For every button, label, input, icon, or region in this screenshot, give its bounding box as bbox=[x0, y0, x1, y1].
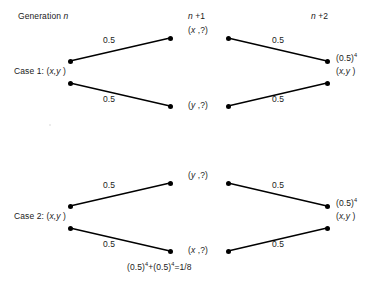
image-speck bbox=[49, 124, 51, 126]
case-2-mid-bottom-label: (x ,?) bbox=[188, 246, 208, 256]
diagram-canvas: Generation n n +1 n +2 Case 1: (x,y ) (x… bbox=[0, 0, 373, 286]
graph-node bbox=[226, 104, 231, 109]
case-1-result-pair: (x,y ) bbox=[336, 67, 356, 77]
graph-node bbox=[168, 181, 173, 186]
case-1-weight-top-right: 0.5 bbox=[272, 36, 284, 46]
edge-layer bbox=[0, 0, 373, 286]
graph-node bbox=[68, 59, 73, 64]
case-1-mid-top-label: (x ,?) bbox=[188, 26, 208, 36]
case-2-weight-bottom-left: 0.5 bbox=[103, 240, 115, 250]
transition-edge bbox=[70, 228, 170, 251]
graph-node bbox=[325, 59, 330, 64]
case-2-result-probability: (0.5)4 bbox=[336, 199, 357, 209]
case-2-mid-top-label: (y ,?) bbox=[188, 171, 208, 181]
header-generation-n-plus-1: n +1 bbox=[188, 12, 205, 22]
transition-edge bbox=[70, 183, 170, 206]
case-1-weight-bottom-right: 0.5 bbox=[272, 95, 284, 105]
case-2-weight-top-right: 0.5 bbox=[272, 181, 284, 191]
graph-node bbox=[68, 204, 73, 209]
graph-node bbox=[325, 226, 330, 231]
case-2-result-pair: (x,y ) bbox=[336, 212, 356, 222]
graph-node bbox=[325, 204, 330, 209]
header-generation-n: Generation n bbox=[18, 12, 68, 22]
graph-node bbox=[168, 104, 173, 109]
case-2-weight-top-left: 0.5 bbox=[103, 181, 115, 191]
case-1-result-probability: (0.5)4 bbox=[336, 54, 357, 64]
graph-node bbox=[226, 249, 231, 254]
case-2-weight-bottom-right: 0.5 bbox=[272, 240, 284, 250]
header-generation-n-plus-2: n +2 bbox=[311, 12, 328, 22]
transition-edge bbox=[70, 83, 170, 106]
case-1-weight-bottom-left: 0.5 bbox=[103, 95, 115, 105]
case-1-label: Case 1: (x,y ) bbox=[14, 67, 66, 77]
summary-formula: (0.5)4+(0.5)4=1/8 bbox=[127, 263, 192, 273]
case-1-weight-top-left: 0.5 bbox=[103, 36, 115, 46]
case-1-mid-bottom-label: (y ,?) bbox=[188, 101, 208, 111]
graph-node bbox=[226, 36, 231, 41]
graph-node bbox=[325, 81, 330, 86]
graph-node bbox=[226, 181, 231, 186]
transition-edge bbox=[70, 38, 170, 61]
case-2-label: Case 2: (x,y ) bbox=[14, 212, 66, 222]
graph-node bbox=[68, 226, 73, 231]
graph-node bbox=[168, 249, 173, 254]
graph-node bbox=[68, 81, 73, 86]
graph-node bbox=[168, 36, 173, 41]
